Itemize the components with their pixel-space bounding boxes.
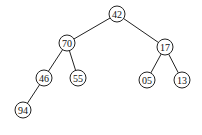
tree-node-13: 13 <box>174 72 190 88</box>
tree-edge-17-05 <box>151 54 161 73</box>
tree-node-70: 70 <box>59 35 75 51</box>
tree-node-17: 17 <box>157 39 173 55</box>
tree-node-55: 55 <box>70 70 86 86</box>
tree-edge-42-70 <box>74 18 110 39</box>
binary-tree-diagram: 4270174655051394 <box>0 0 202 135</box>
node-label: 94 <box>18 105 28 116</box>
tree-node-05: 05 <box>139 72 155 88</box>
tree-edge-70-46 <box>48 50 62 72</box>
node-label: 13 <box>177 75 187 86</box>
tree-node-46: 46 <box>36 70 52 86</box>
node-label: 05 <box>142 75 152 86</box>
tree-edge-17-13 <box>169 54 179 73</box>
tree-edge-70-55 <box>69 51 75 71</box>
node-label: 46 <box>39 73 49 84</box>
tree-edges <box>27 18 178 103</box>
node-label: 70 <box>62 38 72 49</box>
tree-node-94: 94 <box>15 102 31 118</box>
node-label: 17 <box>160 42 170 53</box>
tree-node-42: 42 <box>109 6 125 22</box>
tree-edge-46-94 <box>27 85 39 104</box>
tree-edge-42-17 <box>124 19 159 43</box>
node-label: 42 <box>112 9 122 20</box>
node-label: 55 <box>73 73 83 84</box>
